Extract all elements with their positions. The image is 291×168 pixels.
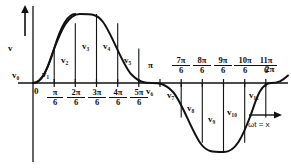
- x-tick-3pi-over-6: 3π 6: [88, 88, 106, 106]
- x-tick-8pi-over-6: 8π 6: [193, 56, 211, 74]
- x-axis-label: ωt = x: [248, 120, 270, 129]
- ordinate-label-v2: v₂: [61, 55, 68, 65]
- ordinate-label-v4: v₄: [103, 41, 110, 51]
- y-axis-label: v: [8, 43, 13, 53]
- origin-label: 0: [34, 86, 39, 96]
- x-tick-7pi-over-6: 7π 6: [172, 56, 190, 74]
- ordinate-label-v7: v₇: [167, 90, 174, 100]
- ordinate-label-v11: v₁₁: [249, 90, 259, 100]
- ordinate-label-v3: v₃: [82, 41, 89, 51]
- x-tick-9pi-over-6: 9π 6: [214, 56, 232, 74]
- x-tick-pi-over-6: π 6: [47, 88, 63, 106]
- x-tick-11pi-over-6: 11π 6: [255, 56, 277, 74]
- figure-canvas: [0, 0, 291, 168]
- ordinate-label-v9: v₉: [208, 114, 215, 124]
- y-axis-arrow-icon: [21, 5, 29, 36]
- ordinate-label-v0: v₀: [12, 70, 19, 80]
- ordinate-label-v10: v₁₀: [227, 107, 237, 117]
- ordinate-label-v6: v₆: [146, 86, 153, 96]
- x-tick-10pi-over-6: 10π 6: [234, 56, 256, 74]
- sine-wave-figure: v 0 π 2π ωt = x π 6 2π 6 3π 6 4π 6 5π 6 …: [0, 0, 291, 168]
- ordinate-label-v1: v₁: [42, 69, 49, 79]
- pi-label: π: [148, 60, 153, 70]
- x-tick-2pi-over-6: 2π 6: [67, 88, 85, 106]
- ordinate-label-v5: v₅: [124, 55, 131, 65]
- ordinate-label-v8: v₈: [187, 103, 194, 113]
- x-tick-4pi-over-6: 4π 6: [109, 88, 127, 106]
